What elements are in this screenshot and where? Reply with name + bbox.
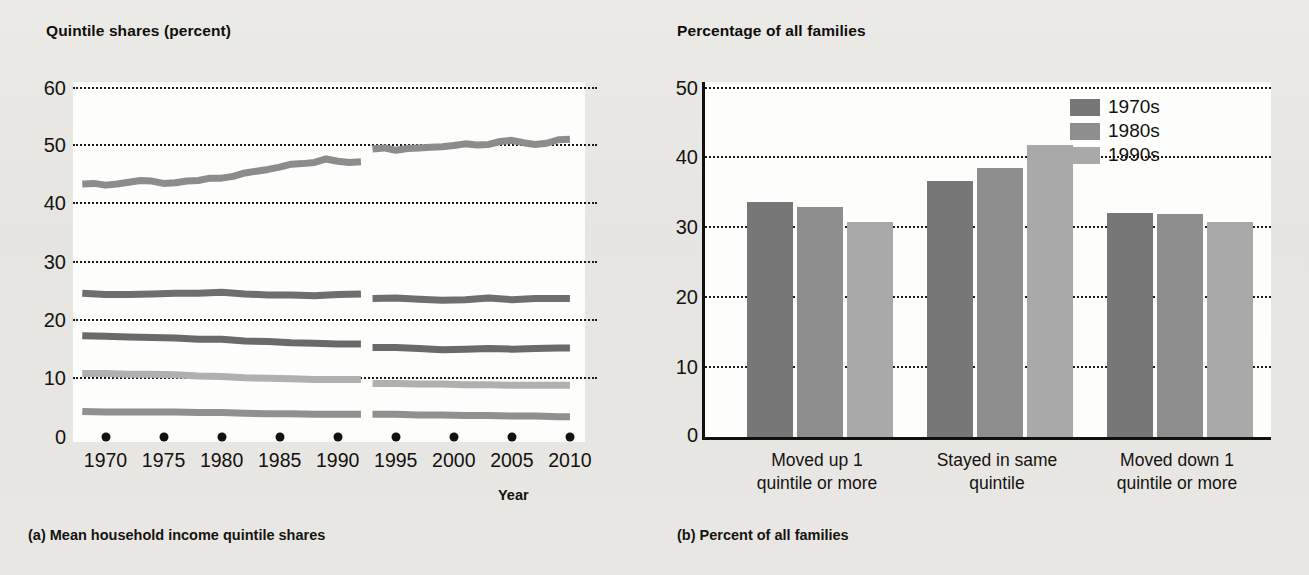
group-label-line2: quintile or more: [1117, 472, 1238, 495]
bar-1980s-group-2[interactable]: [977, 168, 1023, 437]
xtick-label-1980: 1980: [200, 449, 243, 472]
xtick-dot-1985: [275, 433, 284, 442]
xtick-label-1985: 1985: [258, 449, 301, 472]
series-3-segment-1: [373, 383, 570, 385]
xtick-label-1990: 1990: [316, 449, 359, 472]
group-label-1: Moved up 1quintile or more: [757, 449, 878, 495]
series-0-segment-1: [373, 139, 570, 150]
panel-a-plot-area: 60 50 40 30 20 10 0: [73, 82, 585, 442]
series-3-segment-0: [82, 374, 361, 380]
group-label-line2: quintile: [937, 472, 1058, 495]
bar-1970s-group-1[interactable]: [747, 202, 793, 437]
bar-1990s-group-2[interactable]: [1027, 145, 1073, 437]
panel-b-caption: (b) Percent of all families: [677, 527, 849, 543]
xtick-dot-1990: [333, 433, 342, 442]
panel-a-ytick-50: 50: [44, 134, 66, 157]
xtick-label-1970: 1970: [84, 449, 127, 472]
series-1-segment-0: [82, 292, 361, 295]
legend-item-1970s[interactable]: 1970s: [1070, 96, 1160, 118]
panel-a-series-svg: [73, 82, 585, 442]
xtick-dot-1975: [159, 433, 168, 442]
xtick-label-1975: 1975: [142, 449, 185, 472]
group-label-2: Stayed in samequintile: [937, 449, 1058, 495]
group-label-line1: Moved up 1: [757, 449, 878, 472]
xtick-label-1995: 1995: [374, 449, 417, 472]
panel-a-title: Quintile shares (percent): [46, 22, 231, 40]
series-4-segment-1: [373, 414, 570, 416]
panel-b-title: Percentage of all families: [677, 22, 866, 40]
panel-a-ytick-30: 30: [44, 251, 66, 274]
series-0-segment-0: [82, 159, 361, 185]
legend-swatch-1990s: [1070, 147, 1100, 164]
xtick-label-2005: 2005: [490, 449, 533, 472]
series-4-segment-0: [82, 411, 361, 414]
panel-a-ytick-60: 60: [44, 77, 66, 100]
panel-a-ytick-10: 10: [44, 367, 66, 390]
group-label-line2: quintile or more: [757, 472, 878, 495]
legend-label-1990s: 1990s: [1108, 144, 1160, 166]
bar-1980s-group-1[interactable]: [797, 207, 843, 437]
bar-1990s-group-1[interactable]: [847, 222, 893, 437]
panel-b-plot-area: 50 40 30 20 10 0 1970s 1980s 199: [702, 82, 1271, 440]
xtick-dot-2010: [565, 433, 574, 442]
bar-1970s-group-3[interactable]: [1107, 213, 1153, 437]
legend-swatch-1970s: [1070, 99, 1100, 116]
xtick-dot-2000: [449, 433, 458, 442]
xtick-label-2000: 2000: [432, 449, 475, 472]
xtick-dot-1980: [217, 433, 226, 442]
panel-b-legend: 1970s 1980s 1990s: [1070, 96, 1160, 168]
panel-a-xaxis-title: Year: [498, 487, 529, 503]
legend-item-1990s[interactable]: 1990s: [1070, 144, 1160, 166]
panel-a-ytick-40: 40: [44, 192, 66, 215]
series-2-segment-1: [373, 347, 570, 349]
legend-swatch-1980s: [1070, 123, 1100, 140]
xtick-dot-1970: [101, 433, 110, 442]
panel-b-ytick-50: 50: [676, 77, 698, 100]
panel-b-ytick-0: 0: [687, 424, 698, 447]
panel-b-ytick-20: 20: [676, 286, 698, 309]
legend-item-1980s[interactable]: 1980s: [1070, 120, 1160, 142]
panel-b-bar-chart: Percentage of all families 50 40 30 20 1…: [655, 0, 1309, 575]
xtick-label-2010: 2010: [548, 449, 591, 472]
series-2-segment-0: [82, 336, 361, 344]
legend-label-1970s: 1970s: [1108, 96, 1160, 118]
xtick-dot-2005: [507, 433, 516, 442]
bar-1980s-group-3[interactable]: [1157, 214, 1203, 437]
group-label-line1: Moved down 1: [1117, 449, 1238, 472]
panel-a-ytick-20: 20: [44, 309, 66, 332]
panel-a-caption: (a) Mean household income quintile share…: [28, 527, 325, 543]
bar-1990s-group-3[interactable]: [1207, 222, 1253, 437]
panel-a-line-chart: Quintile shares (percent) 60 50 40 30 20…: [0, 0, 655, 575]
figure-root: Quintile shares (percent) 60 50 40 30 20…: [0, 0, 1309, 575]
panel-b-ytick-40: 40: [676, 146, 698, 169]
bar-1970s-group-2[interactable]: [927, 181, 973, 437]
panel-b-ytick-30: 30: [676, 216, 698, 239]
group-label-line1: Stayed in same: [937, 449, 1058, 472]
group-label-3: Moved down 1quintile or more: [1117, 449, 1238, 495]
xtick-dot-1995: [391, 433, 400, 442]
panel-b-ytick-10: 10: [676, 356, 698, 379]
legend-label-1980s: 1980s: [1108, 120, 1160, 142]
panel-b-bars: [705, 82, 1271, 437]
panel-a-ytick-0: 0: [55, 426, 66, 449]
series-1-segment-1: [373, 298, 570, 300]
